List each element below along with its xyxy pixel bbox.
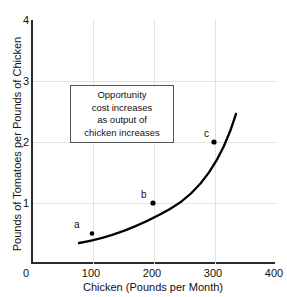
gridline-y-3 [33, 81, 277, 82]
annotation-line-1: Opportunity [97, 89, 146, 102]
x-axis-title: Chicken (Pounds per Month) [31, 281, 275, 293]
x-tick-300: 300 [198, 268, 228, 279]
point-label-a: a [74, 220, 80, 230]
gridline-y-1 [33, 203, 277, 204]
point-label-b: b [141, 190, 147, 200]
chart-figure: a b c Opportunity cost increases as outp… [0, 0, 287, 297]
point-label-c: c [204, 129, 209, 139]
x-tick-0: 0 [11, 268, 41, 279]
annotation-line-4: chicken increases [84, 127, 160, 140]
annotation-box: Opportunity cost increases as output of … [70, 85, 174, 143]
annotation-line-3: as output of [97, 114, 147, 127]
y-axis-title: Pounds of Tomatoes per Pounds of Chicken [11, 20, 23, 268]
annotation-line-2: cost increases [92, 102, 153, 115]
x-tick-200: 200 [137, 268, 167, 279]
x-tick-100: 100 [76, 268, 106, 279]
x-tick-400: 400 [259, 268, 287, 279]
